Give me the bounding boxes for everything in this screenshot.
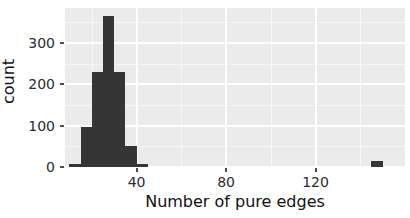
y-axis-tick bbox=[60, 166, 64, 168]
histogram-figure: 0100200300 count 4080120 Number of pure … bbox=[0, 0, 410, 218]
histogram-bar bbox=[114, 72, 125, 167]
x-axis-tick bbox=[136, 168, 138, 172]
gridline-minor-horizontal bbox=[65, 64, 405, 65]
gridline-minor-vertical bbox=[360, 8, 361, 167]
histogram-bar bbox=[125, 146, 136, 167]
histogram-bar bbox=[371, 161, 382, 167]
plot-panel bbox=[65, 8, 405, 167]
x-axis-title: Number of pure edges bbox=[65, 192, 405, 211]
y-axis-tick bbox=[60, 42, 64, 44]
histogram-bar bbox=[103, 16, 114, 167]
histogram-bar bbox=[81, 127, 92, 167]
y-axis-tick-label: 100 bbox=[0, 119, 55, 133]
gridline-major-vertical bbox=[315, 8, 317, 167]
histogram-bar bbox=[69, 164, 80, 167]
gridline-major-vertical bbox=[225, 8, 227, 167]
histogram-bar bbox=[92, 72, 103, 167]
gridline-minor-horizontal bbox=[65, 22, 405, 23]
x-axis-tick-label: 120 bbox=[286, 175, 346, 189]
x-axis-tick bbox=[315, 168, 317, 172]
gridline-minor-vertical bbox=[271, 8, 272, 167]
y-axis-tick bbox=[60, 125, 64, 127]
gridline-minor-vertical bbox=[181, 8, 182, 167]
x-axis-tick-label: 80 bbox=[196, 175, 256, 189]
x-axis-tick bbox=[225, 168, 227, 172]
gridline-major-horizontal bbox=[65, 42, 405, 44]
y-axis-tick-label: 0 bbox=[0, 160, 55, 174]
y-axis-tick bbox=[60, 83, 64, 85]
gridline-major-vertical bbox=[136, 8, 138, 167]
y-axis-title: count bbox=[0, 50, 18, 114]
y-axis-tick-label: 300 bbox=[0, 36, 55, 50]
histogram-bar bbox=[137, 164, 148, 167]
x-axis-tick-label: 40 bbox=[107, 175, 167, 189]
